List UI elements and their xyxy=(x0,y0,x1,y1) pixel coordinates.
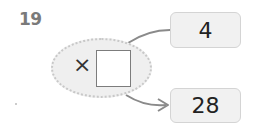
input-value-box: 4 xyxy=(170,12,241,48)
multiply-icon: × xyxy=(73,55,89,75)
output-value-box: 28 xyxy=(170,88,241,123)
answer-blank-box[interactable] xyxy=(96,50,131,87)
input-value: 4 xyxy=(199,18,213,43)
input-connector xyxy=(128,30,170,43)
output-value: 28 xyxy=(192,93,220,118)
speck xyxy=(15,103,17,105)
